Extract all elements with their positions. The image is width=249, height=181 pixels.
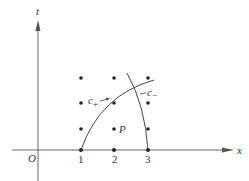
characteristics-diagram: t x O 1 2 3 c+ c− P [0,0,249,181]
x-axis-arrow-icon [222,148,234,153]
origin-label: O [28,152,36,164]
c-minus-label: c− [147,86,157,100]
t-axis-label: t [36,5,40,17]
t-axis-arrow-icon [36,20,41,31]
x-axis-label: x [236,144,242,156]
tick-label-1: 1 [78,153,84,165]
tick-label-3: 3 [145,153,151,165]
c-minus-curve [127,73,148,150]
grid-points [79,76,150,152]
c-plus-arrow-icon [106,98,110,101]
point-p-label: P [118,123,126,135]
c-plus-label: c+ [88,94,98,109]
c-minus-pointer [140,93,146,94]
tick-label-2: 2 [112,153,118,165]
